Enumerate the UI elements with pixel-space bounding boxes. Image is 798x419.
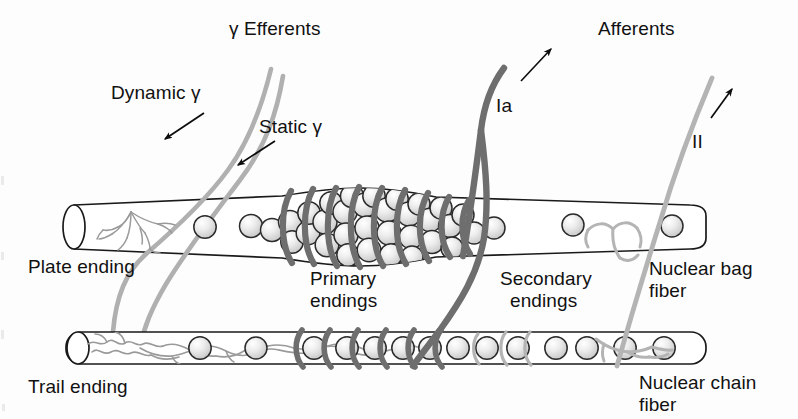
dynamic-gamma-arrow (165, 113, 204, 139)
chain-fiber-left-cap (67, 332, 89, 364)
nuclear-bag-fiber-label-line1: Nuclear bag (649, 258, 753, 280)
ia-arrow (521, 49, 551, 81)
dynamic-gamma-label: Dynamic γ (111, 82, 201, 104)
ii-arrow (711, 89, 732, 118)
nuclear-chain-fiber-label-line1: Nuclear chain (639, 372, 756, 394)
scan-artifacts (1, 176, 5, 411)
primary-endings-label-line1: Primary (310, 268, 376, 290)
secondary-endings-label-line2: endings (510, 290, 577, 312)
plate-ending-label: Plate ending (28, 256, 135, 278)
figure-canvas: γ Efferents Afferents Dynamic γ Static γ… (0, 0, 798, 419)
primary-endings-label-line2: endings (310, 290, 377, 312)
nuclear-bag-fiber-label-line2: fiber (649, 280, 686, 302)
pointer-arrows (165, 49, 732, 165)
gamma-efferents-header: γ Efferents (229, 18, 321, 40)
afferents-header: Afferents (598, 18, 675, 40)
muscle-spindle-diagram (0, 0, 798, 419)
static-gamma-label: Static γ (259, 116, 322, 138)
bag-fiber-left-cap (63, 205, 85, 249)
trail-ending-label: Trail ending (28, 376, 128, 398)
ia-label: Ia (496, 95, 512, 117)
ii-label: II (692, 131, 703, 153)
secondary-endings-label-line1: Secondary (500, 268, 592, 290)
nuclear-chain-fiber-label-line2: fiber (639, 394, 676, 416)
